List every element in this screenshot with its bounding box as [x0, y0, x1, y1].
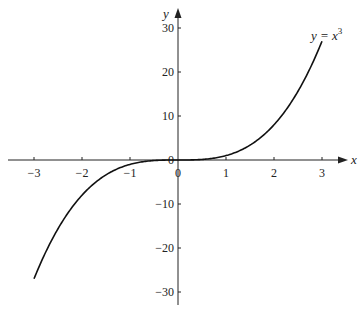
- y-tick-label: 20: [162, 65, 174, 79]
- x-tick-label: −1: [124, 166, 137, 180]
- x-tick-label: −3: [28, 166, 41, 180]
- y-tick-label: −30: [155, 285, 174, 299]
- x-tick-label: 2: [271, 166, 277, 180]
- x-axis-label: x: [350, 152, 357, 167]
- y-tick-label: 10: [162, 109, 174, 123]
- cubic-function-chart: x y −3−2−10123 −30−20−100102030 y = x3: [0, 0, 363, 311]
- x-tick-label: 3: [319, 166, 325, 180]
- x-tick-label: −2: [76, 166, 89, 180]
- y-axis-label: y: [161, 6, 169, 21]
- curve-equation-label: y = x3: [309, 26, 343, 43]
- y-tick-label: 30: [162, 21, 174, 35]
- x-tick-label: 1: [223, 166, 229, 180]
- x-axis-arrow-icon: [338, 157, 348, 164]
- equation-exponent: 3: [338, 26, 343, 36]
- axes: x y: [8, 6, 357, 305]
- y-axis-arrow-icon: [175, 8, 182, 18]
- y-tick-label: −10: [155, 197, 174, 211]
- y-tick-label: −20: [155, 241, 174, 255]
- x-tick-label: 0: [175, 166, 181, 180]
- equation-base: y = x: [309, 28, 338, 43]
